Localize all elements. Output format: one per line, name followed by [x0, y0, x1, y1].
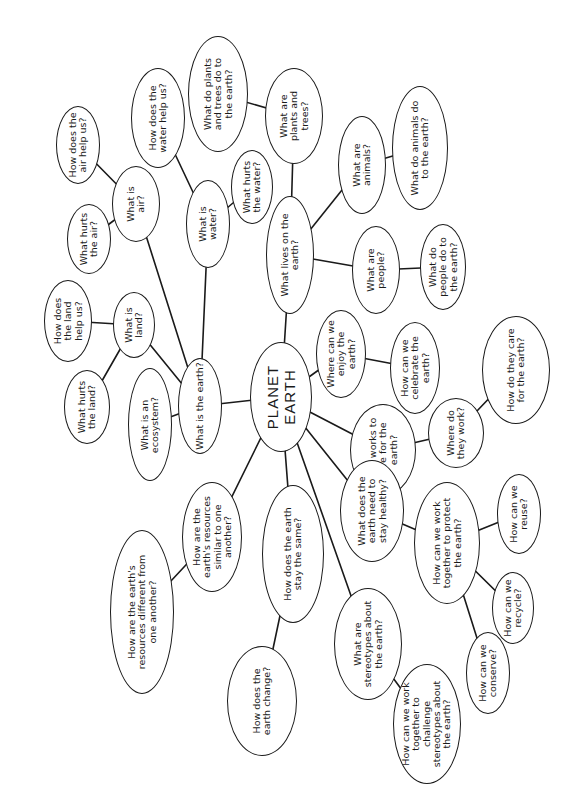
node-label: What hurts the land? [77, 376, 98, 438]
node-celebrate: How can we celebrate the earth? [390, 322, 440, 414]
node-label: What is an ecosystem? [140, 375, 161, 475]
node-label: What hurts the water? [242, 159, 263, 215]
node-label: What hurts the air? [79, 211, 100, 267]
node-label: What are animals? [352, 127, 373, 203]
node-challenge: How can we work together to challenge st… [393, 664, 461, 784]
node-stereotypes: What are stereotypes about the earth? [334, 588, 402, 700]
node-label: How does the earth stay the same? [283, 499, 304, 609]
node-label: What lives on the earth? [280, 207, 301, 303]
node-protect: How can we work together to protect the … [414, 482, 480, 604]
node-animals-do: What do animals do to the earth? [392, 86, 448, 210]
node-label: How are the earth's resources similar to… [192, 492, 233, 582]
center-node-label: PLANET EARTH [265, 352, 298, 442]
node-label: How can we reuse? [509, 483, 530, 545]
node-water-help: How does the water help us? [131, 68, 185, 168]
center-node-planet-earth: PLANET EARTH [250, 342, 312, 452]
node-label: What are plants and trees? [279, 79, 310, 153]
node-label: How can we celebrate the earth? [400, 332, 431, 404]
node-label: How are the earth's resources different … [127, 547, 158, 677]
node-land-help: How does the land help us? [44, 280, 92, 362]
node-reuse: How can we reuse? [497, 474, 541, 554]
node-air-hurt: What hurts the air? [67, 204, 111, 274]
node-animals: What are animals? [338, 116, 386, 214]
node-land: What is land? [113, 292, 155, 358]
node-label: What is air? [126, 179, 147, 229]
node-label: What is water? [198, 191, 219, 257]
node-label: How can we conserve? [478, 641, 499, 705]
node-label: How does the air help us? [68, 109, 89, 181]
node-healthy: What does the earth need to stay healthy… [340, 460, 404, 562]
node-land-hurt: What hurts the land? [64, 370, 110, 444]
node-water-hurt: What hurts the water? [231, 150, 273, 224]
node-label: What do plants and trees do to the earth… [203, 49, 234, 139]
node-label: How does the earth change? [252, 659, 273, 743]
node-recycle: How can we recycle? [492, 572, 534, 644]
node-water: What is water? [186, 180, 230, 268]
node-label: What does the earth need to stay healthy… [357, 470, 388, 552]
node-ecosystem: What is an ecosystem? [128, 368, 172, 481]
node-label: What do animals do to the earth? [410, 100, 431, 196]
node-where-work: Where do they work? [428, 398, 484, 468]
node-label: How does the water help us? [148, 78, 169, 158]
node-label: What is land? [124, 297, 145, 353]
node-label: How does the land help us? [53, 290, 84, 352]
node-similar: How are the earth's resources similar to… [182, 482, 242, 592]
node-plants: What are plants and trees? [265, 68, 323, 164]
node-change: How does the earth change? [227, 646, 297, 756]
node-label: How can we work together to challenge st… [401, 674, 452, 774]
node-people: What are people? [352, 226, 400, 314]
node-people-do: What do people do to the earth? [420, 224, 466, 310]
node-lives: What lives on the earth? [266, 196, 314, 314]
node-how-care: How do they care for the earth? [482, 316, 550, 424]
node-label: What are stereotypes about the earth? [353, 600, 384, 688]
node-stay-same: How does the earth stay the same? [262, 485, 324, 623]
node-label: How do they care for the earth? [506, 328, 527, 412]
node-label: What is the earth? [195, 360, 205, 452]
node-air: What is air? [112, 166, 160, 242]
node-label: How can we recycle? [503, 579, 524, 637]
node-label: What do people do to the earth? [428, 232, 459, 302]
mind-map: PLANET EARTH What is the earth?What is a… [0, 0, 571, 787]
node-air-help: How does the air help us? [56, 106, 100, 184]
node-label: What are people? [366, 236, 387, 304]
node-earth: What is the earth? [178, 358, 222, 454]
node-label: How can we work together to protect the … [432, 493, 463, 593]
node-different: How are the earth's resources different … [110, 530, 174, 694]
node-conserve: How can we conserve? [466, 632, 510, 714]
node-label: Where do they work? [446, 406, 467, 460]
node-enjoy: Where can we enjoy the earth? [316, 310, 366, 398]
node-plants-do: What do plants and trees do to the earth… [188, 36, 248, 152]
node-label: Where can we enjoy the earth? [326, 319, 357, 389]
